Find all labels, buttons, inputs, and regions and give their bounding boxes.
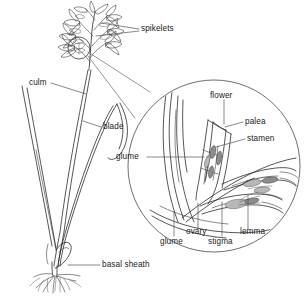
leader-blade: [83, 121, 101, 127]
magnifier-lens-circle: [128, 80, 300, 252]
root-system: [30, 274, 81, 293]
label-palea: palea: [245, 118, 266, 126]
label-glume-left: glume: [116, 153, 139, 161]
leaf-lower-left: [47, 244, 49, 264]
label-lemma: lemma: [240, 228, 265, 236]
grass-anatomy-diagram: spikelets culm blade basal sheath flower…: [0, 0, 305, 298]
leaf-left-secondary: [36, 150, 56, 250]
floret-upper-right: [222, 168, 298, 194]
label-basal-sheath: basal sheath: [102, 261, 150, 269]
whole-plant-illustration: [22, 1, 127, 293]
label-flower: flower: [210, 92, 232, 100]
leader-culm: [51, 83, 86, 94]
label-ovary: ovary: [186, 228, 207, 236]
label-spikelets: spikelets: [141, 25, 174, 33]
label-culm: culm: [29, 79, 47, 87]
leader-palea: [225, 122, 243, 127]
label-stigma: stigma: [208, 238, 233, 246]
flower-structure: [196, 120, 231, 204]
label-blade: blade: [103, 123, 124, 131]
label-stamen: stamen: [247, 135, 274, 143]
label-glume-bottom: glume: [160, 238, 183, 246]
leader-lines: [51, 23, 248, 265]
diagram-canvas: [0, 0, 305, 298]
